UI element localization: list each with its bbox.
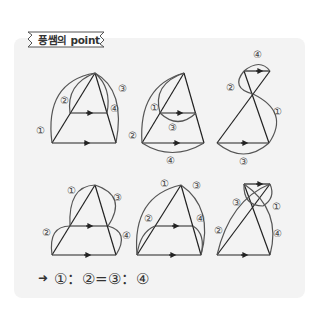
diagram-4-label-3: ③ [113, 192, 122, 203]
diagram-5-label-2: ② [144, 213, 153, 224]
right-arrow-icon: ➜ [38, 271, 48, 285]
ratio-formula-text: ①：②=③：④ [54, 267, 149, 288]
diagram-6-label-1: ① [272, 201, 281, 212]
diagram-6-label-3: ③ [232, 197, 241, 208]
similar-triangle-diagrams: ① ② ③ ④ ① ② ③ ④ ④ ② ① ③ [0, 0, 323, 311]
diagram-2-label-1: ① [150, 102, 159, 113]
diagram-6-label-2: ② [214, 225, 223, 236]
diagram-1-label-3: ③ [118, 83, 127, 94]
diagram-6 [217, 184, 273, 255]
diagram-3 [217, 65, 277, 155]
diagram-3-label-3: ③ [239, 156, 248, 167]
diagram-1 [51, 73, 119, 143]
diagram-1-label-4: ④ [110, 103, 119, 114]
diagram-3-label-4: ④ [253, 49, 262, 60]
diagram-1-label-2: ② [60, 95, 69, 106]
diagram-5-label-1: ① [160, 178, 169, 189]
diagram-2-label-2: ② [128, 130, 137, 141]
diagram-4-label-2: ② [42, 227, 51, 238]
diagram-3-label-2: ② [226, 82, 235, 93]
diagram-2-label-4: ④ [166, 155, 175, 166]
diagram-4 [51, 185, 121, 255]
diagram-2-label-3: ③ [168, 122, 177, 133]
diagram-4-label-1: ① [67, 185, 76, 196]
diagram-1-label-1: ① [36, 125, 45, 136]
diagram-5-label-3: ③ [192, 180, 201, 191]
diagram-3-label-1: ① [273, 106, 282, 117]
diagram-5-label-4: ④ [196, 213, 205, 224]
diagram-6-label-4: ④ [273, 228, 282, 239]
diagram-4-label-4: ④ [122, 230, 131, 241]
ratio-formula: ➜ ①：②=③：④ [38, 267, 149, 288]
